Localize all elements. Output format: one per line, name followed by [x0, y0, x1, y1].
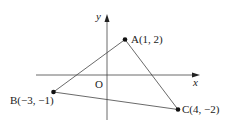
coordinate-diagram: y x O A(1, 2) B(−3, −1) C(4, −2): [0, 0, 238, 125]
segment-ac: [125, 40, 178, 110]
point-c: [176, 107, 181, 112]
point-c-label: C(4, −2): [182, 103, 220, 116]
x-axis: [36, 73, 200, 78]
x-axis-label: x: [192, 76, 198, 88]
triangle-abc: [54, 40, 179, 110]
segment-ab: [54, 40, 126, 93]
y-axis: [105, 14, 110, 120]
point-a-label: A(1, 2): [131, 33, 163, 46]
y-axis-label: y: [95, 10, 101, 22]
point-a: [123, 37, 128, 42]
y-axis-arrow-icon: [105, 14, 110, 22]
origin-label: O: [95, 78, 103, 90]
segment-bc: [54, 92, 179, 110]
point-b-label: B(−3, −1): [10, 94, 54, 107]
